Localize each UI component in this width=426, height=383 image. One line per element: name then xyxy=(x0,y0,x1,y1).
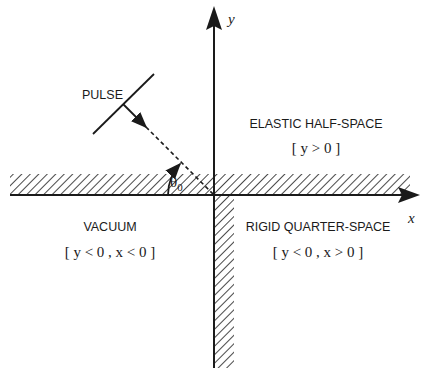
diagram-canvas: y x PULSE θ0 ELASTIC HALF-SPACE [ y > 0 … xyxy=(0,0,426,383)
angle-subscript: 0 xyxy=(177,181,183,193)
y-axis-label: y xyxy=(226,11,235,27)
rigid-region-condition: [ y < 0 , x > 0 ] xyxy=(273,244,364,260)
propagation-arrow xyxy=(123,104,146,127)
elastic-region-condition: [ y > 0 ] xyxy=(292,140,340,156)
angle-symbol: θ xyxy=(170,174,177,190)
boundary-hatch-horizontal xyxy=(10,174,410,194)
rigid-region-name: RIGID QUARTER-SPACE xyxy=(246,220,391,234)
boundary-hatch-vertical xyxy=(214,195,234,368)
x-axis-label: x xyxy=(407,210,415,226)
vacuum-region-condition: [ y < 0 , x < 0 ] xyxy=(65,244,156,260)
vacuum-region-name: VACUUM xyxy=(83,220,136,234)
pulse-label: PULSE xyxy=(82,88,123,102)
elastic-region-name: ELASTIC HALF-SPACE xyxy=(249,117,382,131)
